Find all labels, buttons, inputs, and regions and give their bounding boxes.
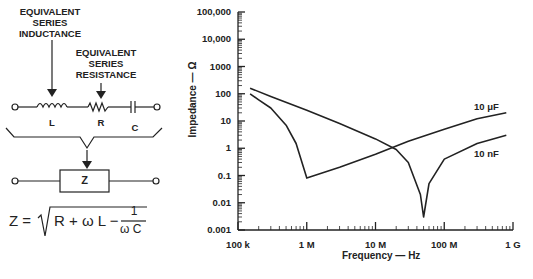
- y-tick-label: 0.01: [171, 197, 231, 208]
- x-axis-title: Frequency — Hz: [342, 250, 420, 261]
- x-tick-label: 10 M: [351, 239, 401, 250]
- y-axis-title: Impedance — Ω: [187, 60, 198, 140]
- y-tick-label: 0.1: [171, 170, 231, 181]
- series-label-10nf: 10 nF: [474, 148, 499, 159]
- y-tick-label: 10,000: [171, 33, 231, 44]
- series-label-10uf: 10 μF: [474, 101, 499, 112]
- y-tick-label: 1000: [171, 61, 231, 72]
- y-tick-label: 100,000: [171, 6, 231, 17]
- y-tick-label: 1: [171, 142, 231, 153]
- x-tick-label: 1 G: [488, 239, 533, 250]
- y-tick-label: 10: [171, 115, 231, 126]
- curve-10uf: [250, 94, 506, 178]
- x-tick-label: 1 M: [282, 239, 332, 250]
- x-tick-label: 100 k: [213, 239, 263, 250]
- y-tick-label: 0.001: [171, 224, 231, 235]
- y-tick-label: 100: [171, 88, 231, 99]
- impedance-chart: [0, 0, 533, 279]
- x-tick-label: 100 M: [419, 239, 469, 250]
